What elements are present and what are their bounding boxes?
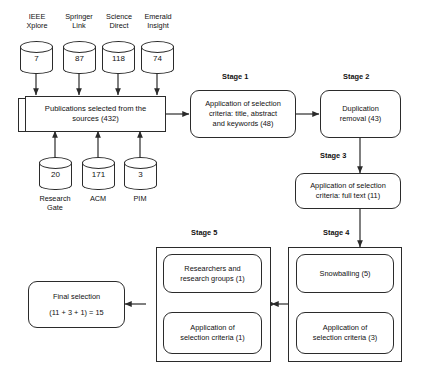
source-cylinder-emerald-insight: 74 <box>141 41 174 74</box>
source-count-emerald-insight: 74 <box>141 53 174 62</box>
source-cylinder-ieee-xplore: 7 <box>20 41 53 74</box>
stage-4-label: Stage 4 <box>323 228 349 237</box>
cylinder-top <box>102 41 135 53</box>
stage-1-label: Stage 1 <box>222 72 248 81</box>
publications-line-2: sources (432) <box>72 114 118 124</box>
stage-1-box: Application of selection criteria: title… <box>190 90 296 138</box>
stage-5-label: Stage 5 <box>191 228 217 237</box>
cylinder-top <box>82 157 115 169</box>
stage-5-researchers-box: Researchers and research groups (1) <box>163 254 262 293</box>
source-count-science-direct: 118 <box>102 53 135 62</box>
cylinder-top <box>141 41 174 53</box>
source-count-pim: 3 <box>124 169 157 178</box>
source-cylinder-research-gate: 20 <box>39 157 72 190</box>
stage-4-selection-criteria-box: Application of selection criteria (3) <box>296 312 394 354</box>
final-selection-formula: (11 + 3 + 1) = 15 <box>49 308 103 318</box>
stage-3-box: Application of selection criteria: full … <box>295 173 401 209</box>
stage-4-snowballing-box: Snowballing (5) <box>296 254 394 293</box>
source-count-ieee-xplore: 7 <box>20 53 53 62</box>
source-cylinder-science-direct: 118 <box>102 41 135 74</box>
cylinder-top <box>39 157 72 169</box>
final-selection-box: Final selection (11 + 3 + 1) = 15 <box>28 281 125 328</box>
source-label-emerald-insight: Emerald Insight <box>133 12 183 31</box>
source-cylinder-acm: 171 <box>82 157 115 190</box>
publications-line-1: Publications selected from the <box>45 104 146 114</box>
source-label-pim: PIM <box>115 194 165 203</box>
source-cylinder-pim: 3 <box>124 157 157 190</box>
cylinder-top <box>63 41 96 53</box>
flowchart-diagram: IEEE Xplore 7 Springer Link 87 Science D… <box>0 0 422 373</box>
cylinder-top <box>20 41 53 53</box>
stage-2-box: Duplication removal (43) <box>320 90 401 138</box>
final-selection-title: Final selection <box>53 292 100 302</box>
source-count-springer-link: 87 <box>63 53 96 62</box>
stage-3-label: Stage 3 <box>320 151 346 160</box>
source-cylinder-springer-link: 87 <box>63 41 96 74</box>
stage-2-label: Stage 2 <box>343 72 369 81</box>
stage-5-selection-criteria-box: Application of selection criteria (1) <box>163 312 262 354</box>
source-count-acm: 171 <box>82 169 115 178</box>
cylinder-top <box>124 157 157 169</box>
source-count-research-gate: 20 <box>39 169 72 178</box>
publications-selected-box: Publications selected from the sources (… <box>25 96 166 132</box>
